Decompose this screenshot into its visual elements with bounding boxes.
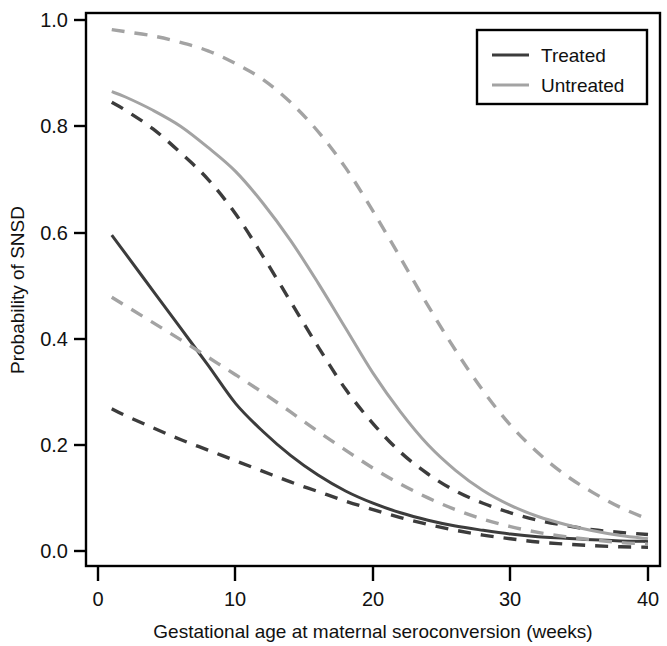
legend-label-treated: Treated — [541, 45, 606, 66]
x-tick-label: 10 — [224, 588, 246, 610]
legend: Treated Untreated — [477, 30, 647, 104]
y-tick-label: 0.6 — [40, 222, 68, 244]
x-tick-label: 30 — [499, 588, 521, 610]
legend-label-untreated: Untreated — [541, 75, 624, 96]
y-tick-label: 1.0 — [40, 9, 68, 31]
x-tick-label: 40 — [637, 588, 659, 610]
y-tick-label: 0.8 — [40, 115, 68, 137]
y-tick-label: 0.4 — [40, 328, 68, 350]
y-tick-label: 0.0 — [40, 540, 68, 562]
probability-of-snsd-chart: 1.0 0.8 0.6 0.4 0.2 0.0 0 10 20 30 40 Ge… — [0, 0, 667, 646]
y-tick-label: 0.2 — [40, 434, 68, 456]
y-axis-label: Probability of SNSD — [7, 206, 28, 374]
x-tick-label: 0 — [92, 588, 103, 610]
x-tick-label: 20 — [362, 588, 384, 610]
x-axis-label: Gestational age at maternal seroconversi… — [153, 621, 592, 642]
